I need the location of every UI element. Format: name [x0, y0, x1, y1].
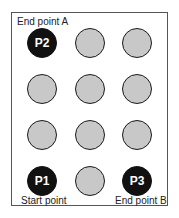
point-r2c0	[27, 120, 57, 150]
point-r1c0	[27, 74, 57, 104]
point-r1c2	[122, 74, 152, 104]
point-p1-label: P1	[35, 174, 50, 188]
point-p2-label: P2	[35, 36, 50, 50]
point-r0c1	[75, 28, 105, 58]
point-r0c2	[122, 28, 152, 58]
start-point-label: Start point	[21, 195, 67, 206]
point-r2c1	[75, 120, 105, 150]
point-r2c2	[122, 120, 152, 150]
end-point-b-label: End point B	[115, 195, 167, 206]
end-point-a-label: End point A	[17, 16, 68, 27]
point-r3c1	[75, 166, 105, 196]
point-p2: P2	[27, 28, 57, 58]
point-p3-label: P3	[130, 174, 145, 188]
point-p1: P1	[27, 166, 57, 196]
point-p3: P3	[122, 166, 152, 196]
point-r1c1	[75, 74, 105, 104]
